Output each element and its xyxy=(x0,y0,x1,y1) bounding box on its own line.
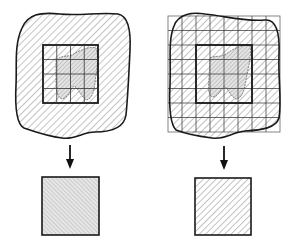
left-result-square xyxy=(42,177,99,235)
right-down-arrow-icon xyxy=(220,146,228,170)
diagram xyxy=(0,0,293,251)
left-down-arrow-icon xyxy=(66,145,74,169)
right-result-square xyxy=(195,178,251,235)
left-panel xyxy=(16,13,131,235)
right-panel xyxy=(168,13,280,235)
